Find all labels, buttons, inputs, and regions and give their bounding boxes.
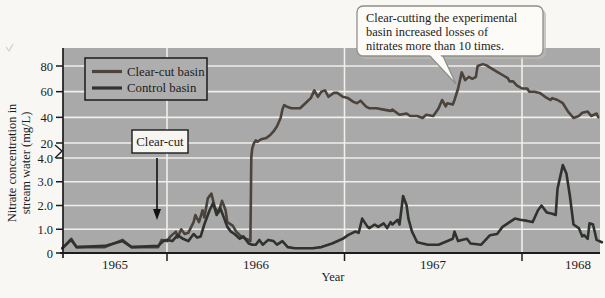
legend-label-clear-cut: Clear-cut basin [127,65,205,79]
y-axis-title-line1: Nitrate concentration in [5,103,19,222]
y-tick-label: 1.0 [37,223,53,237]
x-tick-label: 1966 [243,257,270,272]
y-tick-label: 4.0 [37,152,53,166]
x-tick-label: 1967 [420,257,447,272]
clear-cut-label: Clear-cut [136,135,184,149]
y-axis-break-icon [55,145,62,158]
y-tick-label: 2.0 [37,199,53,213]
scan-artifact-mark [6,44,13,51]
y-tick-label: 0 [47,247,53,261]
callout-text-line2: basin increased losses of [366,25,489,39]
y-tick-label: 3.0 [37,175,53,189]
x-tick-label: 1965 [102,257,128,272]
y-axis-title-line2: stream water (mg/L) [19,112,33,215]
y-tick-label: 60 [41,85,54,99]
y-axis-title: Nitrate concentration in stream water (m… [5,103,33,222]
callout-text-line3: nitrates more than 10 times. [366,39,504,53]
y-tick-label: 80 [41,60,54,74]
x-axis-title: Year [321,270,345,284]
x-tick-label: 1968 [565,257,591,272]
callout-text-line1: Clear-cutting the experimental [366,11,518,25]
figure: 01.02.03.04.0204060801965196619671968 Ni… [0,0,605,298]
legend: Clear-cut basin Control basin [85,58,207,100]
y-tick-label: 20 [41,137,54,151]
nitrate-concentration-chart: 01.02.03.04.0204060801965196619671968 Ni… [0,0,605,298]
legend-label-control: Control basin [127,81,197,95]
y-tick-label: 40 [41,111,54,125]
